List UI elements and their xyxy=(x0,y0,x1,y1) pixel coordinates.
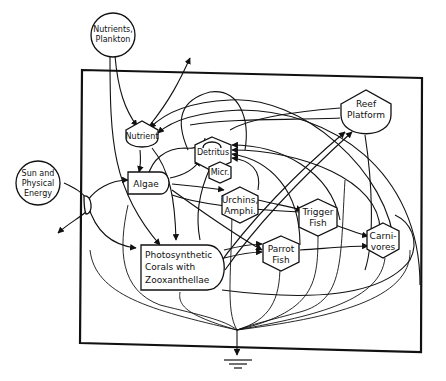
svg-text:vores: vores xyxy=(371,242,396,252)
source-sun-energy: Sun and Physical Energy xyxy=(16,161,60,205)
consumer-urchins: Urchins, Amphi. xyxy=(222,187,259,223)
svg-text:Physical: Physical xyxy=(22,179,55,188)
svg-text:Micr.: Micr. xyxy=(211,168,230,177)
svg-text:Sun and: Sun and xyxy=(22,169,55,178)
svg-text:Algae: Algae xyxy=(133,179,159,189)
consumer-micr: Micr. xyxy=(209,162,231,183)
producer-algae: Algae xyxy=(128,172,169,194)
consumer-carnivores: Carni- vores xyxy=(367,223,399,258)
svg-text:Fish: Fish xyxy=(309,218,326,228)
producer-corals: Photosynthetic Corals with Zooxanthellae xyxy=(141,245,224,290)
svg-text:Detritus: Detritus xyxy=(197,148,229,157)
svg-text:Nutrients,: Nutrients, xyxy=(93,25,133,34)
interaction-junction xyxy=(84,196,91,214)
svg-text:Energy: Energy xyxy=(24,189,52,198)
consumer-parrot-fish: Parrot Fish xyxy=(263,236,299,271)
svg-text:Zooxanthellae: Zooxanthellae xyxy=(145,275,210,285)
svg-text:Fish: Fish xyxy=(272,255,289,265)
heat-sink-icon xyxy=(224,360,252,368)
storage-reef-platform: Reef Platform xyxy=(341,90,391,134)
svg-text:Nutrient: Nutrient xyxy=(126,132,159,141)
source-nutrients-plankton: Nutrients, Plankton xyxy=(91,13,135,57)
svg-text:Photosynthetic: Photosynthetic xyxy=(145,250,212,260)
svg-text:Carni-: Carni- xyxy=(370,231,397,241)
svg-text:Trigger: Trigger xyxy=(301,207,333,217)
svg-text:Plankton: Plankton xyxy=(96,35,131,44)
svg-text:Corals with: Corals with xyxy=(145,262,195,272)
consumer-trigger-fish: Trigger Fish xyxy=(299,199,337,236)
coral-reef-energy-diagram: Nutrients, Plankton Sun and Physical Ene… xyxy=(0,0,446,381)
svg-text:Urchins,: Urchins, xyxy=(222,195,259,205)
svg-text:Parrot: Parrot xyxy=(268,244,295,254)
svg-text:Amphi.: Amphi. xyxy=(224,206,256,216)
svg-text:Platform: Platform xyxy=(347,110,385,120)
svg-text:Reef: Reef xyxy=(356,99,377,109)
